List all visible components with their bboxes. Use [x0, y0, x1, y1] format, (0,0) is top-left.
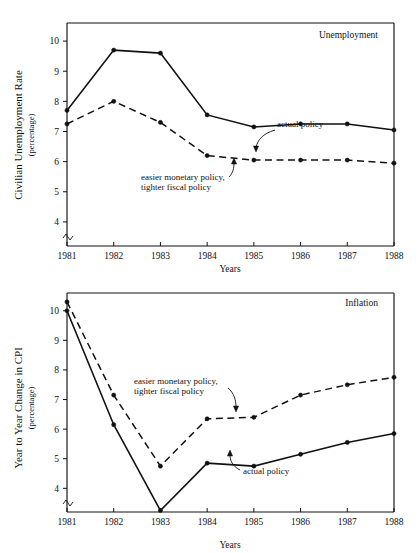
y-axis-label-unemployment: Civilian Unemployment Rate	[12, 70, 24, 200]
leader-arrow-alt-inflation	[233, 406, 238, 412]
leader-arrow-actual-inflation	[227, 450, 232, 456]
inflation-plot: 45678910 1981198219831984198519861987198…	[0, 280, 420, 553]
y-axis-label-inflation: Year to Year Change in CPI	[12, 347, 24, 469]
data-point	[205, 153, 209, 157]
y-axis-sublabel-unemployment: (percentage)	[26, 114, 36, 157]
y-tick-label: 10	[50, 306, 60, 316]
x-tick-label: 1988	[385, 517, 404, 527]
data-point	[298, 393, 302, 397]
data-point	[158, 508, 162, 512]
y-tick-label: 6	[54, 157, 59, 167]
leader-line-alt-inflation	[228, 388, 236, 407]
leader-line-actual-inflation	[230, 455, 240, 470]
x-tick-label: 1984	[198, 517, 217, 527]
inflation-x-ticks: 19811982198319841985198619871988	[58, 508, 404, 527]
series-line-alt-policy	[67, 101, 394, 163]
inflation-y-ticks: 45678910	[50, 306, 68, 494]
leader-line-actual-unemployment	[256, 130, 275, 147]
panel-title-inflation: Inflation	[345, 298, 378, 308]
data-point	[205, 113, 209, 117]
data-point	[345, 383, 349, 387]
y-tick-label: 8	[54, 365, 59, 375]
data-point	[252, 125, 256, 129]
unemployment-plot: 45678910 1981198219831984198519861987198…	[0, 0, 420, 280]
data-point	[392, 161, 396, 165]
data-point	[65, 300, 69, 304]
annotation-alt-policy-line1-unemployment: easier monetary policy,	[141, 172, 225, 182]
annotation-alt-policy-line1-inflation: easier monetary policy,	[134, 376, 218, 386]
data-point	[345, 158, 349, 162]
panel-title-unemployment: Unemployment	[319, 30, 378, 40]
y-tick-label: 4	[54, 484, 59, 494]
x-tick-label: 1982	[104, 517, 123, 527]
chart-panel-unemployment: 45678910 1981198219831984198519861987198…	[0, 0, 420, 280]
annotation-actual-policy-inflation: actual policy	[243, 466, 290, 476]
y-tick-label: 7	[54, 127, 59, 137]
x-axis-label-unemployment: Years	[219, 264, 241, 274]
inflation-series	[65, 300, 396, 513]
y-tick-label: 9	[54, 67, 59, 77]
data-point	[158, 120, 162, 124]
data-point	[112, 393, 116, 397]
data-point	[252, 158, 256, 162]
y-tick-label: 7	[54, 395, 59, 405]
x-tick-label: 1986	[291, 251, 310, 261]
y-tick-label: 6	[54, 425, 59, 435]
x-tick-label: 1984	[198, 251, 217, 261]
data-point	[392, 375, 396, 379]
x-tick-label: 1983	[151, 251, 170, 261]
leader-line-alt-unemployment	[229, 163, 234, 177]
x-tick-label: 1982	[104, 251, 123, 261]
y-tick-label: 4	[54, 217, 59, 227]
x-tick-label: 1981	[58, 251, 77, 261]
x-tick-label: 1988	[385, 251, 404, 261]
x-tick-label: 1983	[151, 517, 170, 527]
data-point	[298, 452, 302, 456]
data-point	[65, 309, 69, 313]
data-point	[205, 417, 209, 421]
x-tick-label: 1981	[58, 517, 77, 527]
inflation-axes	[63, 293, 394, 512]
data-point	[345, 440, 349, 444]
series-line-actual-policy	[67, 50, 394, 130]
data-point	[65, 108, 69, 112]
unemployment-x-ticks: 19811982198319841985198619871988	[58, 242, 404, 261]
data-point	[112, 423, 116, 427]
leader-arrow-actual-unemployment	[253, 146, 258, 152]
data-point	[112, 48, 116, 52]
x-tick-label: 1986	[291, 517, 310, 527]
y-tick-label: 9	[54, 336, 59, 346]
y-axis-sublabel-inflation: (percentage)	[26, 387, 36, 430]
series-line-alt-policy	[67, 302, 394, 466]
y-tick-label: 5	[54, 454, 59, 464]
unemployment-series	[65, 48, 396, 165]
x-tick-label: 1987	[338, 517, 357, 527]
y-tick-label: 8	[54, 97, 59, 107]
y-axis-break-icon	[63, 500, 73, 506]
x-tick-label: 1987	[338, 251, 357, 261]
data-point	[112, 99, 116, 103]
unemployment-y-ticks: 45678910	[50, 36, 68, 227]
x-tick-label: 1985	[244, 517, 263, 527]
chart-panel-inflation: 45678910 1981198219831984198519861987198…	[0, 280, 420, 553]
data-point	[298, 158, 302, 162]
data-point	[205, 461, 209, 465]
data-point	[158, 51, 162, 55]
data-point	[345, 122, 349, 126]
y-axis-break-icon	[63, 234, 73, 240]
series-line-actual-policy	[67, 311, 394, 511]
data-point	[158, 464, 162, 468]
x-axis-label-inflation: Years	[219, 540, 241, 550]
data-point	[252, 415, 256, 419]
annotation-actual-policy-unemployment: actual policy	[277, 119, 324, 129]
data-point	[65, 122, 69, 126]
y-tick-label: 10	[50, 36, 60, 46]
x-tick-label: 1985	[244, 251, 263, 261]
annotation-alt-policy-line2-unemployment: tighter fiscal policy	[141, 182, 211, 192]
unemployment-axes	[63, 23, 394, 246]
data-point	[392, 128, 396, 132]
y-tick-label: 5	[54, 187, 59, 197]
annotation-alt-policy-line2-inflation: tighter fiscal policy	[134, 386, 204, 396]
data-point	[392, 431, 396, 435]
